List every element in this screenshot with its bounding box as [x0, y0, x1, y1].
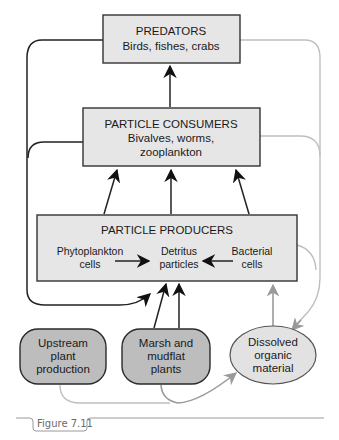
bacterial-line2: cells [241, 258, 262, 270]
predators-box [103, 15, 240, 63]
detritus-line2: particles [159, 258, 198, 270]
consumers-subtitle-line2: zooplankton [140, 146, 202, 158]
bacterial-line1: Bacterial [232, 245, 273, 257]
upstream-line1: Upstream [38, 337, 88, 349]
upstream-to-dissolved-flow [60, 385, 170, 403]
producers-to-consumers-arrow-right [236, 170, 249, 214]
detritus-line1: Detritus [161, 245, 197, 257]
predators-subtitle: Birds, fishes, crabs [122, 40, 219, 52]
phytoplankton-line2: cells [79, 258, 100, 270]
marsh-line1: Marsh and [139, 337, 193, 349]
dissolved-arrow-head-path [292, 320, 301, 330]
upstream-line2: plant [51, 350, 77, 362]
consumers-subtitle-line1: Bivalves, worms, [128, 132, 214, 144]
food-web-diagram: PREDATORS Birds, fishes, crabs PARTICLE … [0, 0, 339, 440]
figure-caption: Figure 7.11 [37, 418, 93, 429]
marsh-line3: plants [151, 363, 182, 375]
marsh-to-producers-arrow-left [154, 284, 166, 328]
predators-to-dissolved-loop [240, 40, 320, 327]
producers-right-loop [297, 245, 316, 270]
producers-to-consumers-arrow-left [104, 170, 117, 214]
consumers-title: PARTICLE CONSUMERS [104, 118, 237, 130]
producers-title: PARTICLE PRODUCERS [101, 224, 233, 236]
dissolved-line3: material [253, 362, 294, 374]
predators-title: PREDATORS [136, 25, 207, 37]
upstream-line3: production [36, 363, 90, 375]
dissolved-line1: Dissolved [248, 336, 298, 348]
consumers-right-loop [260, 136, 320, 156]
dissolved-line2: organic [254, 349, 292, 361]
phytoplankton-line1: Phytoplankton [57, 245, 124, 257]
consumers-to-producers-loop [28, 142, 83, 158]
marsh-line2: mudflat [147, 350, 186, 362]
